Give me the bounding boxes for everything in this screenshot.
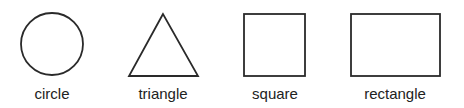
circle-label: circle [34,85,69,102]
rectangle-shape [351,14,440,76]
square-label: square [252,85,298,102]
shapes-diagram: circle triangle square rectangle [0,0,464,108]
circle-shape [21,13,83,75]
triangle-label: triangle [138,85,187,102]
square-shape [244,14,305,76]
rectangle-label: rectangle [364,85,426,102]
triangle-shape [129,14,198,76]
